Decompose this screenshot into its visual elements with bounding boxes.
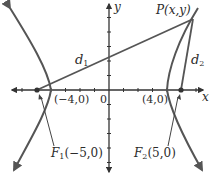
y-axis-label: y — [113, 0, 121, 14]
d1-letter: d — [75, 52, 83, 67]
vertex-right-label: (4,0) — [142, 93, 168, 106]
x-axis-label: x — [202, 90, 209, 104]
d1-subscript: 1 — [83, 59, 88, 68]
focus-f2-point — [178, 87, 183, 92]
point-p-label: P(x,y) — [155, 3, 191, 17]
focus-f1-point — [34, 87, 39, 92]
d2-letter: d — [191, 52, 199, 67]
d2-subscript: 2 — [199, 59, 204, 68]
f2-coords: (5,0) — [147, 146, 175, 160]
f1-coords: (−5,0) — [64, 146, 103, 160]
d1-label: d1 — [75, 52, 88, 68]
hyperbola-diagram: y x 0 P(x,y) d1 d2 (−4,0) (4,0) F1(−5,0)… — [0, 0, 212, 177]
d1-line — [37, 19, 193, 90]
vertex-left-label: (−4,0) — [54, 93, 89, 106]
focus-f2-label: F2(5,0) — [133, 146, 176, 161]
origin-label: 0 — [100, 93, 107, 106]
d2-label: d2 — [191, 52, 204, 68]
focus-f1-label: F1(−5,0) — [50, 146, 103, 161]
hyperbola-left-branch — [10, 8, 51, 170]
f1-leader-arrow-icon — [39, 94, 44, 100]
